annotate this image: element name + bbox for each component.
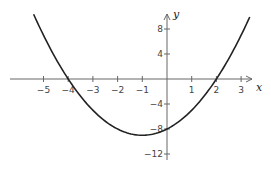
parabola-curve: [34, 14, 250, 135]
y-axis-label: y: [172, 8, 180, 21]
ticks: −5−4−3−2−112384−4−8−12: [37, 24, 244, 159]
y-tick-label: 4: [157, 49, 163, 59]
x-tick-label: −2: [111, 85, 124, 95]
x-tick-label: −5: [37, 85, 50, 95]
y-tick-label: −12: [144, 149, 163, 159]
x-axis-label: x: [256, 81, 263, 94]
y-tick-label: −4: [150, 99, 164, 109]
x-tick-label: 1: [189, 85, 195, 95]
x-tick-label: −3: [86, 85, 99, 95]
x-tick-label: 3: [238, 85, 244, 95]
x-tick-label: 2: [214, 85, 220, 95]
chart: −5−4−3−2−112384−4−8−12 x y: [0, 0, 271, 170]
x-tick-label: −1: [136, 85, 149, 95]
y-tick-label: 8: [157, 24, 163, 34]
